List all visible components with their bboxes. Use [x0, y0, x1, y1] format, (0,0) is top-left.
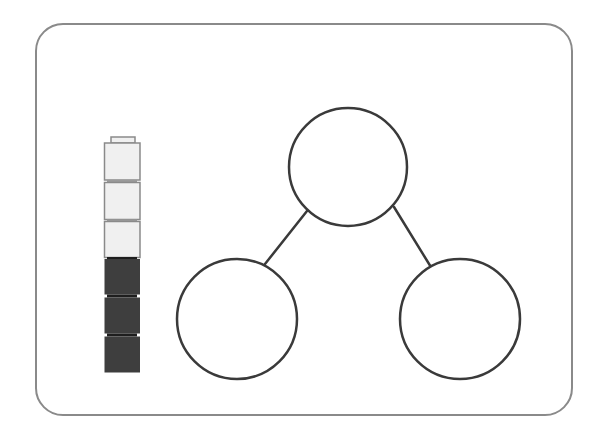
part-circle-right[interactable] [400, 259, 520, 379]
cube-light-2 [105, 183, 141, 220]
cube-light-1 [105, 143, 141, 180]
connector-left [265, 211, 307, 264]
connector-right [394, 207, 434, 272]
part-circle-left[interactable] [177, 259, 297, 379]
worksheet-canvas [0, 0, 606, 429]
cube-dark-5 [105, 298, 141, 334]
number-bond-diagram [0, 0, 606, 429]
cube-light-3 [105, 222, 141, 258]
cube-dark-6 [105, 337, 141, 373]
cube-stack [105, 137, 141, 373]
cube-connector [107, 334, 137, 337]
cube-dark-4 [105, 259, 141, 295]
cube-connector [107, 295, 137, 298]
whole-circle[interactable] [289, 108, 407, 226]
cube-nub [111, 137, 135, 143]
bond-circles [177, 108, 520, 379]
